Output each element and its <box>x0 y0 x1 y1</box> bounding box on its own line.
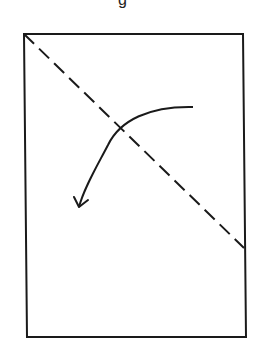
fold-line <box>24 34 244 248</box>
diagram-canvas <box>0 0 271 345</box>
caption-fragment: g <box>118 0 127 9</box>
fold-diagram: g <box>0 0 271 345</box>
fold-arrow-curve <box>79 107 193 207</box>
paper-sheet <box>24 34 246 337</box>
